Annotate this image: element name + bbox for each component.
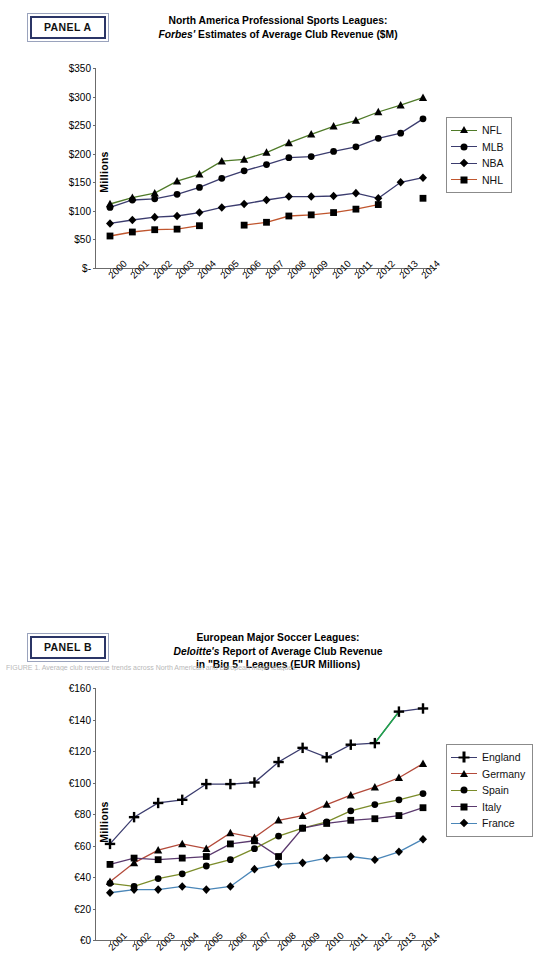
data-point-mlb-2011 (353, 143, 360, 150)
data-point-italy-2011 (347, 817, 354, 824)
legend-marker-triangle-icon (451, 767, 477, 781)
data-point-england-2003 (153, 798, 163, 808)
panel-a-tag: PANEL A (27, 13, 109, 42)
panel-b-tag-label: PANEL B (30, 636, 106, 659)
data-point-italy-2008 (275, 853, 282, 860)
data-point-italy-2005 (203, 853, 210, 860)
data-point-france-2004 (178, 882, 186, 891)
data-point-nfl-2014 (419, 94, 427, 102)
y-axis-tick-label: $350 (69, 63, 91, 74)
legend-item-mlb[interactable]: MLB (451, 139, 504, 156)
data-point-italy-2001 (107, 861, 114, 868)
legend-item-nhl[interactable]: NHL (451, 172, 504, 189)
data-point-germany-2004 (178, 840, 186, 848)
data-point-spain-2005 (203, 863, 210, 870)
data-point-spain-2003 (155, 875, 162, 882)
panel-a-legend: NFLMLBNBANHL (446, 117, 512, 193)
data-point-mlb-2009 (308, 153, 315, 160)
panel-b-title-line1: European Major Soccer Leagues: (128, 631, 428, 645)
data-point-germany-2006 (226, 829, 234, 837)
y-axis-tick-label: €60 (74, 840, 91, 851)
panel-a-plot-area: Millions $-$50$100$150$200$250$300$35020… (95, 68, 437, 269)
figure-footnote: FIGURE 1. Average club revenue trends ac… (6, 664, 534, 671)
data-point-england-2010 (321, 752, 331, 762)
data-point-nhl-2000 (107, 233, 114, 240)
panel-b-series-layer (96, 688, 437, 940)
panel-b-tag: PANEL B (27, 633, 109, 662)
data-point-nba-2005 (218, 203, 226, 212)
data-point-italy-2013 (396, 812, 403, 819)
data-point-mlb-2008 (285, 154, 292, 161)
y-axis-tick-label: $200 (69, 148, 91, 159)
data-point-germany-2013 (395, 774, 403, 782)
data-point-france-2010 (323, 854, 331, 863)
data-point-nfl-2007 (262, 148, 270, 156)
data-point-nba-2013 (397, 178, 405, 187)
data-point-nfl-2002 (151, 189, 159, 197)
legend-item-france[interactable]: France (451, 815, 525, 832)
legend-label: NFL (482, 124, 502, 136)
data-point-nhl-2008 (285, 213, 292, 220)
data-point-mlb-2014 (420, 115, 427, 122)
series-line-england (110, 708, 423, 843)
legend-item-germany[interactable]: Germany (451, 766, 525, 783)
y-axis-tick (93, 909, 97, 910)
y-axis-tick (93, 154, 97, 155)
data-point-nba-2008 (285, 192, 293, 201)
legend-label: France (482, 817, 515, 829)
data-point-italy-2002 (131, 855, 138, 862)
legend-item-nfl[interactable]: NFL (451, 122, 504, 139)
data-point-italy-2014 (420, 804, 427, 811)
y-axis-tick (93, 239, 97, 240)
y-axis-tick-label: €80 (74, 809, 91, 820)
data-point-nba-2003 (173, 212, 181, 221)
data-point-england-2014 (418, 703, 428, 713)
y-axis-tick (93, 125, 97, 126)
data-point-england-2005 (201, 779, 211, 789)
series-line-france (110, 839, 423, 893)
y-axis-tick (93, 182, 97, 183)
data-point-nhl-2004 (196, 222, 203, 229)
y-axis-tick-label: $250 (69, 120, 91, 131)
y-axis-tick-label: €160 (69, 683, 91, 694)
legend-label: MLB (482, 141, 504, 153)
legend-label: NBA (482, 157, 504, 169)
legend-item-spain[interactable]: Spain (451, 782, 525, 799)
data-point-nhl-2002 (151, 226, 158, 233)
data-point-mlb-2005 (218, 175, 225, 182)
panel-a-title-source: Forbes' (158, 29, 195, 40)
data-point-mlb-2012 (375, 135, 382, 142)
legend-marker-diamond-icon (451, 156, 477, 170)
y-axis-tick-label: $50 (74, 234, 91, 245)
y-axis-tick (93, 688, 97, 689)
panel-b-title-source: Deloitte's (174, 646, 220, 657)
data-point-nfl-2004 (195, 170, 203, 178)
data-point-italy-2012 (371, 815, 378, 822)
y-axis-tick (93, 68, 97, 69)
panel-b-plot-area: Millions €0€20€40€60€80€100€120€140€1602… (95, 688, 437, 941)
panel-b-title-line2: Deloitte's Report of Average Club Revenu… (128, 645, 428, 659)
data-point-nba-2004 (195, 208, 203, 217)
legend-label: England (482, 751, 521, 763)
data-point-spain-2004 (179, 870, 186, 877)
y-axis-tick (93, 940, 97, 941)
data-point-nhl-2006 (241, 222, 248, 229)
legend-item-italy[interactable]: Italy (451, 799, 525, 816)
legend-item-england[interactable]: England (451, 749, 525, 766)
y-axis-tick (93, 97, 97, 98)
data-point-spain-2001 (107, 880, 114, 887)
data-point-spain-2007 (251, 845, 258, 852)
data-point-france-2007 (250, 865, 258, 874)
legend-marker-circle-icon (451, 140, 477, 154)
legend-item-nba[interactable]: NBA (451, 155, 504, 172)
y-axis-tick (93, 877, 97, 878)
data-point-nba-2006 (240, 200, 248, 209)
legend-marker-square-icon (451, 800, 477, 814)
data-point-nhl-2014 (420, 195, 427, 202)
data-point-spain-2012 (371, 801, 378, 808)
data-point-italy-2006 (227, 841, 234, 848)
data-point-spain-2013 (396, 796, 403, 803)
legend-marker-circle-icon (451, 783, 477, 797)
data-point-nhl-2009 (308, 211, 315, 218)
panel-a-title: North America Professional Sports League… (128, 14, 428, 41)
